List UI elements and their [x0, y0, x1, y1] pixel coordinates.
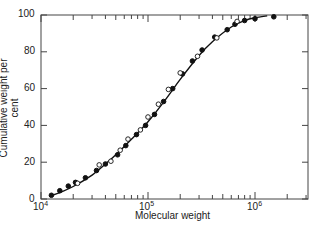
data-point-filled: [49, 193, 54, 198]
data-point-open: [75, 181, 80, 186]
data-point-filled: [200, 48, 205, 53]
data-point-filled: [124, 143, 129, 148]
data-point-filled: [161, 99, 166, 104]
x-tick-1e4: 104: [33, 200, 48, 212]
data-point-filled: [134, 132, 139, 137]
data-point-filled: [94, 168, 99, 173]
data-point-filled: [170, 86, 175, 91]
data-point-filled: [152, 112, 157, 117]
y-tick-20: 20: [24, 156, 35, 167]
data-point-filled: [115, 153, 120, 158]
data-point-open: [215, 36, 220, 41]
x-tick-1e6: 106: [247, 200, 262, 212]
data-point-filled: [143, 123, 148, 128]
data-point-open: [109, 159, 114, 164]
data-point-open: [166, 87, 171, 92]
data-point-open: [138, 128, 143, 133]
y-tick-100: 100: [18, 8, 35, 19]
y-axis-label: Cumulative weight per cent: [0, 53, 20, 163]
data-point-open: [146, 115, 151, 120]
data-point-open: [178, 71, 183, 76]
y-tick-40: 40: [24, 119, 35, 130]
chart-plot: [0, 0, 321, 233]
data-point-filled: [272, 14, 277, 19]
data-point-filled: [190, 59, 195, 64]
data-point-open: [118, 148, 123, 153]
data-point-filled: [58, 188, 63, 193]
data-point-open: [126, 137, 131, 142]
x-tick-1e5: 105: [139, 200, 154, 212]
data-point-open: [195, 54, 200, 59]
data-point-filled: [253, 16, 258, 21]
data-point-open: [97, 163, 102, 168]
data-point-filled: [242, 18, 247, 23]
data-point-filled: [66, 184, 71, 189]
data-point-open: [156, 102, 161, 107]
y-tick-60: 60: [24, 82, 35, 93]
y-tick-80: 80: [24, 45, 35, 56]
plot-frame: [41, 15, 308, 199]
data-point-filled: [83, 176, 88, 181]
data-point-filled: [103, 162, 108, 167]
data-point-open: [235, 19, 240, 24]
data-point-filled: [225, 27, 230, 32]
